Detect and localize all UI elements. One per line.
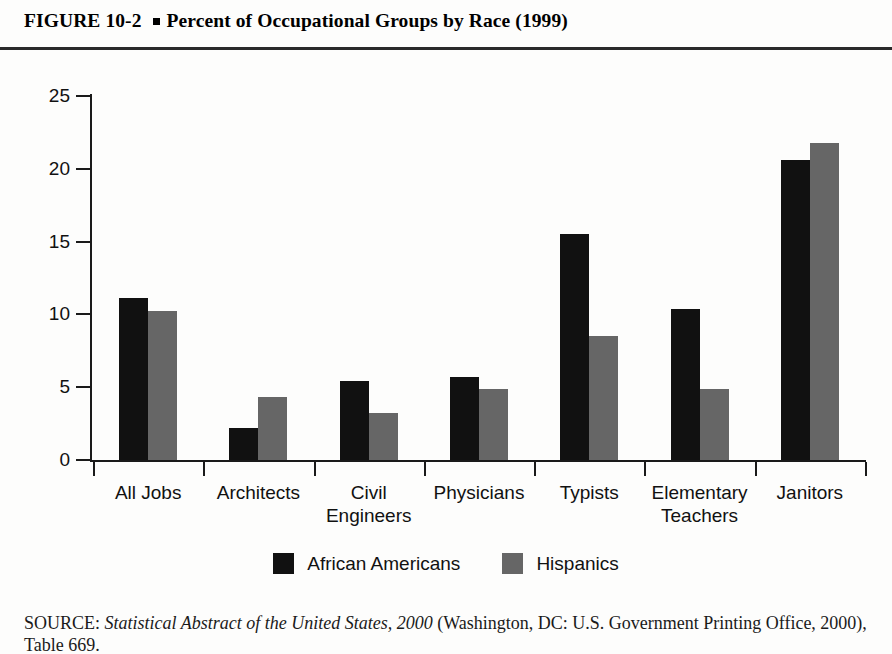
x-axis-label-line: All Jobs bbox=[93, 481, 203, 504]
bar bbox=[229, 428, 258, 460]
x-axis-label: All Jobs bbox=[93, 481, 203, 504]
x-axis-label-line: Typists bbox=[534, 481, 644, 504]
bar bbox=[781, 160, 810, 460]
x-axis-label-line: Physicians bbox=[424, 481, 534, 504]
x-axis-tick bbox=[534, 462, 536, 476]
bar bbox=[700, 389, 729, 460]
x-axis-tick bbox=[93, 462, 95, 476]
x-axis-tick bbox=[755, 462, 757, 476]
source-note: SOURCE: Statistical Abstract of the Unit… bbox=[24, 612, 870, 654]
bar bbox=[450, 377, 479, 460]
x-axis-tick bbox=[314, 462, 316, 476]
chart-legend: African AmericansHispanics bbox=[0, 553, 892, 574]
x-axis-label: Typists bbox=[534, 481, 644, 504]
bar bbox=[119, 298, 148, 460]
bar bbox=[560, 234, 589, 460]
bar-chart: 0510152025 All JobsArchitectsCivilEngine… bbox=[0, 0, 892, 600]
x-axis-label: CivilEngineers bbox=[314, 481, 424, 527]
x-axis-tick bbox=[424, 462, 426, 476]
legend-item: African Americans bbox=[273, 553, 460, 574]
legend-label: African Americans bbox=[307, 554, 460, 573]
x-axis-label-line: Janitors bbox=[755, 481, 865, 504]
x-axis-tick bbox=[865, 462, 867, 476]
source-prefix: SOURCE: bbox=[24, 613, 100, 633]
bar bbox=[671, 309, 700, 460]
bar bbox=[148, 311, 177, 460]
source-title: Statistical Abstract of the United State… bbox=[105, 613, 433, 633]
x-axis-label: Janitors bbox=[755, 481, 865, 504]
legend-swatch-icon bbox=[502, 553, 523, 574]
x-axis-tick bbox=[644, 462, 646, 476]
x-axis-label-line: Architects bbox=[203, 481, 313, 504]
bar bbox=[479, 389, 508, 460]
legend-label: Hispanics bbox=[536, 554, 618, 573]
legend-item: Hispanics bbox=[502, 553, 618, 574]
x-axis-label-line: Teachers bbox=[644, 504, 754, 527]
x-axis-label-line: Civil bbox=[314, 481, 424, 504]
x-axis-label: Physicians bbox=[424, 481, 534, 504]
x-axis-label: ElementaryTeachers bbox=[644, 481, 754, 527]
bar bbox=[258, 397, 287, 460]
x-axis-label-line: Elementary bbox=[644, 481, 754, 504]
x-axis-label-line: Engineers bbox=[314, 504, 424, 527]
bar bbox=[589, 336, 618, 460]
x-axis-tick bbox=[203, 462, 205, 476]
legend-swatch-icon bbox=[273, 553, 294, 574]
bar bbox=[369, 413, 398, 460]
bars-layer bbox=[0, 0, 892, 461]
bar bbox=[810, 143, 839, 460]
figure-page: FIGURE 10-2Percent of Occupational Group… bbox=[0, 0, 892, 654]
bar bbox=[340, 381, 369, 460]
x-axis-label: Architects bbox=[203, 481, 313, 504]
